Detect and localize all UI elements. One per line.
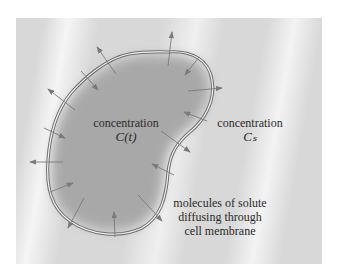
inside-concentration-label: concentration C(t) — [90, 117, 162, 143]
outside-concentration-label: concentration Cₛ — [214, 117, 286, 143]
diagram-root: concentration C(t) concentration Cₛ mole… — [0, 0, 340, 278]
note-line1: molecules of solute — [172, 196, 268, 210]
inside-label-symbol: C(t) — [90, 130, 162, 143]
diffusion-note: molecules of solute diffusing through ce… — [172, 196, 268, 238]
cell-diagram — [0, 0, 340, 278]
note-line2: diffusing through — [172, 210, 268, 224]
note-line3: cell membrane — [172, 224, 268, 238]
outside-label-symbol: Cₛ — [214, 130, 286, 143]
